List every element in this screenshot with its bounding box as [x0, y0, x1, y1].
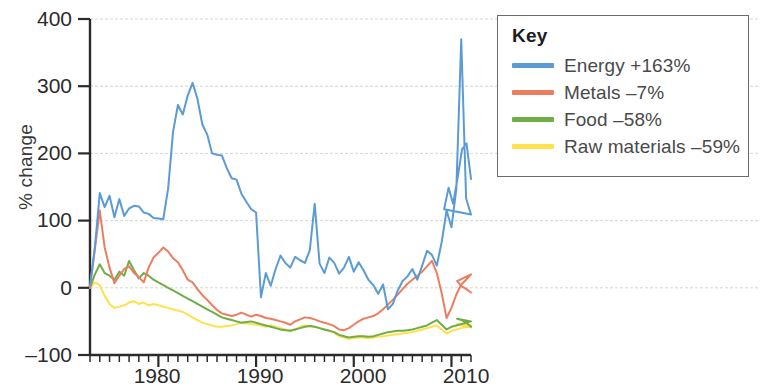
x-axis-minor-ticks — [90, 355, 471, 367]
legend-color-swatch — [512, 90, 554, 95]
legend-color-swatch — [512, 144, 554, 149]
axis-major-ticks — [78, 19, 90, 355]
legend-item[interactable]: Food –58% — [512, 106, 748, 133]
series-lines — [90, 39, 471, 339]
legend-item-label: Metals –7% — [564, 82, 664, 104]
legend-color-swatch — [512, 63, 554, 68]
legend-title: Key — [512, 26, 748, 45]
legend-item-label: Food –58% — [564, 109, 662, 131]
legend-color-swatch — [512, 117, 554, 122]
legend-items: Energy +163%Metals –7%Food –58%Raw mater… — [512, 52, 748, 160]
legend-item[interactable]: Energy +163% — [512, 52, 748, 79]
legend-item-label: Energy +163% — [564, 55, 690, 77]
legend: Key Energy +163%Metals –7%Food –58%Raw m… — [497, 15, 749, 177]
legend-item[interactable]: Raw materials –59% — [512, 133, 748, 160]
legend-item[interactable]: Metals –7% — [512, 79, 748, 106]
chart-container: % change 400 300 200 100 0 –100 1980 199… — [0, 0, 760, 391]
legend-item-label: Raw materials –59% — [564, 136, 740, 158]
